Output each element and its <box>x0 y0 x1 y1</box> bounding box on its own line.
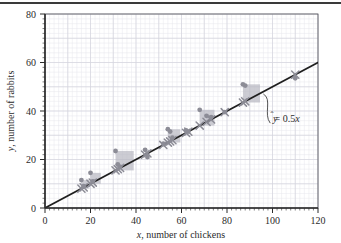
x-tick-label: 120 <box>311 215 326 226</box>
observed-data-point <box>88 170 93 175</box>
x-tick-label: 100 <box>265 215 280 226</box>
observed-data-point <box>90 179 95 184</box>
y-axis-tick-labels: 020406080 <box>26 9 36 214</box>
observed-data-point <box>168 129 173 134</box>
observed-data-point <box>204 113 209 118</box>
observed-data-point <box>209 115 214 120</box>
equation-rest: = 0.5 <box>272 113 295 124</box>
y-axis-title: y, number of rabbits <box>5 71 16 153</box>
observed-data-point <box>118 164 123 169</box>
observed-data-point <box>79 178 84 183</box>
observed-data-point <box>143 147 148 152</box>
figure-container: 020406080100120 020406080 x, number of c… <box>0 0 341 243</box>
x-axis-ticks <box>45 208 318 213</box>
observed-data-point <box>170 135 175 140</box>
x-tick-label: 40 <box>131 215 141 226</box>
observed-data-point <box>293 76 298 81</box>
y-axis-title-rest: , number of rabbits <box>5 71 16 147</box>
observed-data-point <box>161 141 166 146</box>
x-tick-label: 20 <box>86 215 96 226</box>
y-tick-label: 20 <box>26 154 36 165</box>
observed-data-point <box>113 149 118 154</box>
y-axis-ticks <box>40 14 45 208</box>
y-tick-label: 60 <box>26 57 36 68</box>
observed-data-point <box>81 184 86 189</box>
y-tick-label: 40 <box>26 106 36 117</box>
scatter-plot-svg: 020406080100120 020406080 x, number of c… <box>0 0 341 243</box>
x-tick-label: 0 <box>43 215 48 226</box>
y-tick-label: 80 <box>26 9 36 20</box>
observed-data-point <box>222 110 227 115</box>
observed-data-point <box>145 155 150 160</box>
x-tick-label: 60 <box>177 215 187 226</box>
observed-data-point <box>243 83 248 88</box>
equation-x-variable: x <box>294 113 300 124</box>
observed-data-point <box>186 129 191 134</box>
regression-equation-label: ŷ = 0.5x <box>270 111 300 124</box>
x-axis-tick-labels: 020406080100120 <box>43 215 326 226</box>
observed-data-point <box>197 107 202 112</box>
x-axis-title: x, number of chickens <box>136 229 225 240</box>
y-tick-label: 0 <box>31 203 36 214</box>
x-tick-label: 80 <box>222 215 232 226</box>
x-axis-title-rest: , number of chickens <box>141 229 225 240</box>
